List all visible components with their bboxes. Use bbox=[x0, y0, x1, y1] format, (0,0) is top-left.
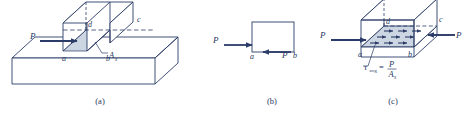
panel-a: P a b c d A s (a) bbox=[12, 2, 178, 106]
panel-c-label-c: c bbox=[439, 15, 443, 24]
figure-root: P a b c d A s (a) P P a b (b) bbox=[0, 0, 466, 114]
panel-c-label-p-left: P bbox=[319, 30, 326, 40]
panel-a-caption: (a) bbox=[95, 96, 105, 106]
panel-c-caption: (c) bbox=[388, 96, 398, 106]
panel-c-label-p-right: P bbox=[455, 30, 462, 40]
base-front-face bbox=[12, 58, 155, 84]
panel-b-label-a: a bbox=[250, 52, 254, 61]
panel-c-label-a: a bbox=[358, 50, 362, 59]
panel-a-label-area: A bbox=[108, 50, 115, 60]
panel-b-label-p-right: P bbox=[281, 50, 288, 60]
formula-tau-subscript: avg bbox=[370, 68, 378, 73]
panel-c-label-b: b bbox=[408, 50, 412, 59]
panel-c: P P a b c d τ avg = P A s (c) bbox=[319, 0, 462, 106]
shear-figure-svg: P a b c d A s (a) P P a b (b) bbox=[0, 0, 466, 114]
panel-b: P P a b (b) bbox=[212, 22, 297, 106]
formula-denominator-subscript: s bbox=[394, 74, 396, 80]
panel-b-label-p-left: P bbox=[212, 35, 219, 45]
panel-a-label-a: a bbox=[62, 54, 66, 63]
formula-numerator: P bbox=[388, 59, 394, 69]
panel-a-label-c: c bbox=[137, 15, 141, 24]
panel-c-lower-front-face bbox=[361, 47, 414, 57]
panel-a-label-p: P bbox=[29, 31, 36, 41]
panel-b-caption: (b) bbox=[267, 96, 277, 106]
panel-a-label-area-subscript: s bbox=[115, 56, 117, 62]
panel-b-label-b: b bbox=[293, 51, 297, 60]
panel-c-shear-stress-formula: τ avg = P A s bbox=[364, 59, 397, 80]
formula-tau-symbol: τ bbox=[364, 62, 368, 72]
panel-b-rectangle bbox=[252, 22, 294, 52]
formula-equals: = bbox=[379, 62, 384, 72]
